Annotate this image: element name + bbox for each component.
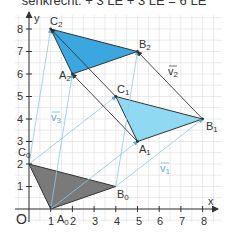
x-tick-8: 8 bbox=[201, 215, 207, 227]
y-axis-label: y bbox=[34, 12, 40, 24]
y-tick-6: 6 bbox=[17, 68, 23, 80]
coordinate-diagram: 1 2 3 4 5 6 7 8 1 2 3 4 5 6 7 8 O x y A0… bbox=[0, 0, 228, 234]
y-tick-1: 1 bbox=[17, 180, 23, 192]
x-tick-3: 3 bbox=[92, 215, 98, 227]
vector-label-v2: v2 bbox=[168, 65, 179, 79]
y-tick-8: 8 bbox=[17, 23, 23, 35]
x-axis-label: x bbox=[208, 195, 214, 207]
y-tick-2: 2 bbox=[17, 158, 23, 170]
label-B0: B0 bbox=[117, 188, 129, 202]
y-tick-7: 7 bbox=[17, 45, 23, 57]
label-A1: A1 bbox=[139, 143, 151, 157]
x-tick-6: 6 bbox=[157, 215, 163, 227]
vector-label-v3: v3 bbox=[51, 111, 62, 125]
label-C2: C2 bbox=[50, 15, 63, 29]
y-tick-4: 4 bbox=[17, 113, 23, 125]
x-tick-5: 5 bbox=[136, 215, 142, 227]
svg-text:v2: v2 bbox=[168, 65, 179, 79]
label-A0: A0 bbox=[57, 213, 69, 227]
y-tick-5: 5 bbox=[17, 90, 23, 102]
x-tick-7: 7 bbox=[179, 215, 185, 227]
label-A2: A2 bbox=[59, 69, 71, 83]
origin-label: O bbox=[16, 211, 27, 227]
x-tick-4: 4 bbox=[114, 215, 120, 227]
x-tick-2: 2 bbox=[70, 215, 76, 227]
label-B1: B1 bbox=[206, 120, 218, 134]
svg-text:v3: v3 bbox=[51, 111, 62, 125]
x-tick-1: 1 bbox=[48, 215, 54, 227]
